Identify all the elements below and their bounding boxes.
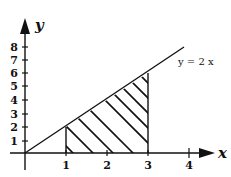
y-tick-6: 6 xyxy=(10,67,18,80)
x-axis-arrow-icon xyxy=(199,148,215,158)
y-axis-arrow-icon xyxy=(20,18,30,34)
x-tick-3: 3 xyxy=(144,159,152,172)
x-tick-4: 4 xyxy=(185,159,193,172)
y-tick-8: 8 xyxy=(10,41,18,54)
x-axis: 1 2 3 4 x xyxy=(10,144,228,172)
y-axis-label: y xyxy=(34,16,45,34)
y-tick-3: 3 xyxy=(10,108,18,121)
y-tick-1: 1 xyxy=(10,135,18,148)
y-tick-7: 7 xyxy=(10,54,18,67)
x-tick-1: 1 xyxy=(62,159,70,172)
x-axis-label: x xyxy=(217,144,228,162)
y-axis: 1 2 3 4 5 6 7 8 y xyxy=(10,16,45,170)
y-tick-4: 4 xyxy=(10,94,18,107)
x-tick-2: 2 xyxy=(103,159,111,172)
y-tick-5: 5 xyxy=(10,80,18,93)
line-y-equals-2x xyxy=(25,47,184,153)
y-tick-2: 2 xyxy=(10,121,18,134)
equation-label: y = 2 x xyxy=(177,56,214,67)
graph: 1 2 3 4 x 1 2 3 4 5 6 7 8 y y = 2 x xyxy=(0,0,231,177)
